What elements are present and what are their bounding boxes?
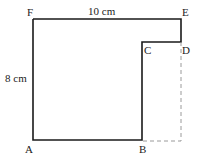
shape-outline [33,19,181,140]
dimension-top: 10 cm [88,5,116,17]
label-B: B [139,143,146,155]
label-E: E [182,6,189,18]
dimension-left: 8 cm [5,72,27,84]
dashed-completion [142,42,181,141]
label-C: C [144,44,151,56]
label-F: F [27,6,33,18]
geometry-diagram: F E C D A B 10 cm 8 cm [0,0,198,159]
label-D: D [182,44,190,56]
label-A: A [25,143,33,155]
